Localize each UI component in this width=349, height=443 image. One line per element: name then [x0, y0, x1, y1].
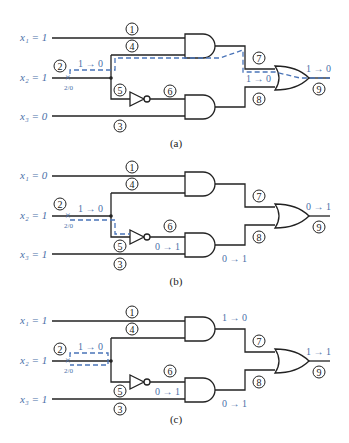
svg-text:3: 3 [118, 121, 123, 132]
panel-c: x₁ = 1 x₂ = 1 x₃ = 1 1 → 0 1 → 0 0 → 1 0… [19, 306, 331, 426]
line-number-2: 2 [54, 198, 66, 210]
line-number-4: 4 [126, 323, 138, 335]
input-x1-label: x₁ = 1 [19, 31, 47, 43]
svg-text:1: 1 [130, 162, 135, 173]
and-gate-bottom [185, 233, 215, 257]
svg-text:7: 7 [257, 336, 262, 347]
panel-b: x₁ = 0 x₂ = 1 x₃ = 1 1 → 0 0 → 1 0 → 1 0… [19, 161, 331, 288]
svg-text:4: 4 [130, 179, 135, 190]
input-x2-label: x₂ = 1 [19, 71, 47, 83]
line-number-1: 1 [126, 161, 138, 173]
caption-c: (c) [170, 413, 183, 426]
line-number-1: 1 [126, 306, 138, 318]
transition-line6: 0 → 1 [155, 386, 180, 397]
svg-text:8: 8 [257, 377, 262, 388]
svg-text:8: 8 [257, 232, 262, 243]
inverter [130, 230, 144, 244]
transition-line2: 1 → 0 [78, 58, 103, 69]
line-number-6: 6 [164, 220, 176, 232]
line-number-9: 9 [313, 366, 325, 378]
svg-text:2: 2 [58, 199, 63, 210]
svg-text:9: 9 [317, 367, 322, 378]
svg-text:2: 2 [58, 61, 63, 72]
transition-line6: 0 → 1 [155, 241, 180, 252]
transition-line2: 1 → 0 [78, 341, 103, 352]
line-number-9: 9 [313, 83, 325, 95]
and-gate-bottom [185, 95, 215, 119]
inverter [130, 375, 144, 389]
svg-text:1: 1 [130, 307, 135, 318]
caption-a: (a) [170, 137, 183, 150]
and-gate-top [185, 34, 215, 58]
line-number-3: 3 [114, 120, 126, 132]
svg-text:2: 2 [58, 344, 63, 355]
input-x3-label: x₃ = 1 [19, 393, 47, 405]
fault-marker-icon: × [65, 210, 71, 221]
caption-b: (b) [170, 275, 183, 288]
fault-marker-icon: × [65, 72, 71, 83]
inverter [130, 92, 144, 106]
line-number-5: 5 [114, 84, 126, 96]
fault-label: 2/0 [64, 222, 73, 230]
or-gate [275, 204, 309, 228]
svg-text:9: 9 [317, 84, 322, 95]
svg-text:5: 5 [118, 386, 123, 397]
svg-text:6: 6 [168, 86, 173, 97]
line-number-7: 7 [253, 52, 265, 64]
transition-output: 0 → 1 [306, 201, 331, 212]
and-gate-bottom [185, 378, 215, 402]
svg-text:4: 4 [130, 324, 135, 335]
line-number-8: 8 [253, 376, 265, 388]
input-x2-label: x₂ = 1 [19, 209, 47, 221]
line-number-4: 4 [126, 178, 138, 190]
line-number-5: 5 [114, 385, 126, 397]
svg-text:8: 8 [257, 94, 262, 105]
line-number-9: 9 [313, 221, 325, 233]
line-number-3: 3 [114, 258, 126, 270]
fault-marker-icon: × [65, 355, 71, 366]
line-number-7: 7 [253, 335, 265, 347]
line-number-6: 6 [164, 85, 176, 97]
transition-line2: 1 → 0 [78, 203, 103, 214]
svg-text:1: 1 [130, 24, 135, 35]
line-number-4: 4 [126, 40, 138, 52]
svg-text:7: 7 [257, 191, 262, 202]
transition-output: 1 → 0 [306, 63, 331, 74]
and-gate-top [185, 172, 215, 196]
line-number-7: 7 [253, 190, 265, 202]
svg-text:5: 5 [118, 85, 123, 96]
transition-line7: 1 → 0 [246, 73, 271, 84]
fault-label: 2/0 [64, 84, 73, 92]
line-number-2: 2 [54, 343, 66, 355]
line-number-5: 5 [114, 240, 126, 252]
or-gate [275, 349, 309, 373]
transition-output: 1 → 1 [306, 346, 331, 357]
svg-text:3: 3 [118, 259, 123, 270]
line-number-8: 8 [253, 231, 265, 243]
svg-text:4: 4 [130, 41, 135, 52]
line-number-1: 1 [126, 23, 138, 35]
line-number-3: 3 [114, 403, 126, 415]
fault-propagation-diagram: x₁ = 1 x₂ = 1 x₃ = 0 1 → 0 1 → 0 1 → 0 2… [0, 0, 349, 443]
line-number-6: 6 [164, 365, 176, 377]
svg-text:5: 5 [118, 241, 123, 252]
line-number-2: 2 [54, 60, 66, 72]
panel-a: x₁ = 1 x₂ = 1 x₃ = 0 1 → 0 1 → 0 1 → 0 2… [19, 23, 331, 150]
svg-text:7: 7 [257, 53, 262, 64]
and-gate-top [185, 317, 215, 341]
input-x2-label: x₂ = 1 [19, 354, 47, 366]
svg-text:6: 6 [168, 366, 173, 377]
fault-label: 2/0 [64, 367, 73, 375]
svg-text:6: 6 [168, 221, 173, 232]
input-x1-label: x₁ = 0 [19, 169, 48, 181]
transition-line7: 1 → 0 [222, 312, 247, 323]
input-x1-label: x₁ = 1 [19, 314, 47, 326]
svg-text:3: 3 [118, 404, 123, 415]
transition-line8: 0 → 1 [222, 253, 247, 264]
transition-line8: 0 → 1 [222, 398, 247, 409]
input-x3-label: x₃ = 0 [19, 110, 48, 122]
input-x3-label: x₃ = 1 [19, 248, 47, 260]
line-number-8: 8 [253, 93, 265, 105]
svg-text:9: 9 [317, 222, 322, 233]
